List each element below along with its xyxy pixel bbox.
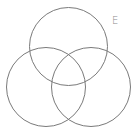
left-circle xyxy=(7,48,86,127)
venn-diagram: E xyxy=(0,0,134,134)
set-label-e: E xyxy=(112,16,118,26)
right-circle xyxy=(52,48,131,127)
top-circle xyxy=(30,8,108,86)
